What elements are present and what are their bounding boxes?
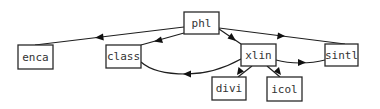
node-class[interactable]: class [106, 45, 141, 68]
node-label: sintl [325, 49, 358, 62]
arrowhead-icon [183, 71, 191, 78]
node-label: divi [216, 82, 243, 95]
arrowhead-icon [274, 67, 281, 75]
arrowhead-icon [298, 59, 306, 66]
node-label: xlin [245, 49, 272, 62]
node-label: phl [192, 17, 212, 30]
node-enca[interactable]: enca [18, 45, 53, 69]
arrowhead-icon [154, 37, 163, 44]
node-label: icol [271, 83, 298, 96]
arrowhead-icon [277, 33, 285, 40]
node-phl[interactable]: phl [184, 12, 219, 34]
node-icol[interactable]: icol [267, 77, 302, 101]
arrowhead-icon [228, 33, 237, 41]
node-sintl[interactable]: sintl [325, 44, 358, 66]
edge-phl-class [141, 33, 184, 45]
call-graph-diagram: phl enca class xlin sintl divi icol [0, 0, 380, 109]
node-label: enca [22, 51, 49, 64]
node-xlin[interactable]: xlin [241, 44, 276, 66]
node-label: class [107, 50, 140, 63]
node-divi[interactable]: divi [212, 77, 246, 100]
